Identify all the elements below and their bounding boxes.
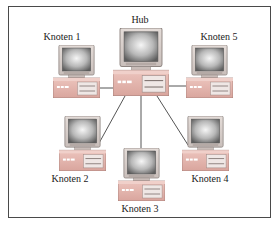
hub-label: Hub <box>131 15 148 25</box>
knoten4-label: Knoten 4 <box>192 174 229 184</box>
knoten3-computer-icon <box>118 148 165 201</box>
knoten1-computer-icon <box>53 45 100 98</box>
knoten2-label: Knoten 2 <box>52 174 89 184</box>
knoten3-label: Knoten 3 <box>122 204 159 214</box>
knoten2-computer-icon <box>59 116 106 171</box>
knoten1-label: Knoten 1 <box>44 32 81 42</box>
knoten5-computer-icon <box>186 45 233 98</box>
knoten5-label: Knoten 5 <box>201 32 238 42</box>
knoten4-computer-icon <box>182 116 229 171</box>
hub-computer-icon <box>113 28 169 96</box>
